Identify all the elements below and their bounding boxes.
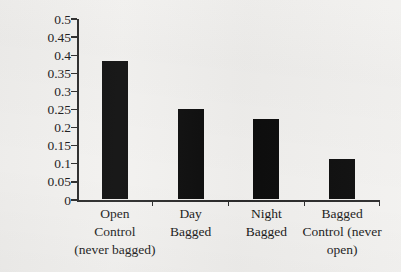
y-axis-tick-label: 0.1 [31,157,71,171]
x-axis-category-label: BaggedControl (neveropen) [283,205,401,259]
y-axis-tick [71,145,77,146]
bar [253,119,279,199]
y-axis-tick [71,199,77,200]
bar [102,61,128,199]
x-axis-category-label-line: Control (never [283,223,401,241]
y-axis-tick-label: 0.05 [31,175,71,189]
bar [329,159,355,199]
y-axis-tick [71,181,77,182]
bar [178,109,204,200]
y-axis-tick [71,73,77,74]
y-axis-tick-label: 0.3 [31,85,71,99]
x-axis-category-label-line: Bagged [283,205,401,223]
y-axis-tick [71,55,77,56]
y-axis-tick [71,127,77,128]
y-axis-tick-label: 0.25 [31,103,71,117]
x-axis-category-label-line: open) [283,241,401,259]
y-axis-tick-label: 0.4 [31,49,71,63]
y-axis-tick-label: 0.2 [31,121,71,135]
y-axis-tick [71,36,77,37]
y-axis-tick [71,163,77,164]
x-axis-category-labels: OpenControl(never bagged)DayBaggedNightB… [77,205,401,272]
plot-area [77,19,380,200]
y-axis-tick-label: 0.5 [31,13,71,27]
bar-chart-figure: Proportion Flowers Fertilized 00.050.10.… [0,0,401,272]
y-axis-tick-label: 0.15 [31,139,71,153]
y-axis-tick-label: 0.45 [31,31,71,45]
x-axis-category-label-line: (never bagged) [55,241,175,259]
y-axis-tick [71,109,77,110]
y-axis-line [77,19,79,201]
y-axis-tick [71,18,77,19]
y-axis-tick [71,91,77,92]
y-axis-tick-label: 0.35 [31,67,71,81]
y-axis-tick-labels: 00.050.10.150.20.250.30.350.40.450.5 [30,19,71,201]
